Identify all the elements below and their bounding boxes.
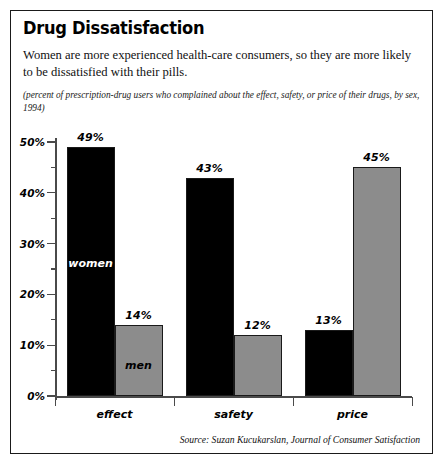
- y-axis-tick-major: [47, 192, 56, 193]
- y-axis-label: 20%: [12, 288, 45, 300]
- y-axis-label: 50%: [12, 136, 45, 148]
- y-axis-tick-minor: [51, 370, 56, 371]
- bar-value-label: 14%: [115, 309, 163, 322]
- x-axis-category-label: effect: [55, 408, 174, 421]
- series-label-women: women: [67, 257, 115, 270]
- x-axis-tick: [293, 397, 294, 406]
- y-axis-label: 10%: [12, 339, 45, 351]
- series-label-men: men: [115, 359, 163, 372]
- y-axis-tick-major: [47, 294, 56, 295]
- x-axis-category-label: price: [293, 408, 412, 421]
- y-axis-tick-major: [47, 141, 56, 142]
- x-axis-tick: [55, 397, 56, 406]
- page-title: Drug Dissatisfaction: [23, 19, 392, 38]
- chart-card: Drug Dissatisfaction Women are more expe…: [10, 10, 433, 454]
- x-axis-tick: [174, 397, 175, 406]
- bar-chart: 0%10%20%30%40%50% 49%women14%meneffect43…: [11, 134, 433, 424]
- y-axis-label: 30%: [12, 238, 45, 250]
- x-axis-tick: [412, 397, 413, 406]
- card-deck-text: Women are more experienced health-care c…: [23, 47, 415, 80]
- y-axis-tick-minor: [51, 319, 56, 320]
- bar-value-label: 13%: [305, 314, 353, 327]
- y-axis-label: 40%: [12, 187, 45, 199]
- source-credit: Source: Suzan Kucukarslan, Journal of Co…: [180, 434, 420, 445]
- bar-safety-men: [234, 335, 282, 396]
- bar-value-label: 12%: [234, 319, 282, 332]
- y-axis-tick-minor: [51, 218, 56, 219]
- bar-value-label: 49%: [67, 131, 115, 144]
- card-note-text: (percent of prescription-drug users who …: [23, 89, 421, 114]
- y-axis-tick-minor: [51, 268, 56, 269]
- y-axis-labels: 0%10%20%30%40%50%: [11, 134, 45, 424]
- bar-price-women: [305, 330, 353, 396]
- bar-effect-women: [67, 147, 115, 396]
- y-axis-label: 0%: [12, 390, 45, 402]
- bar-value-label: 45%: [353, 151, 401, 164]
- x-axis-line: [55, 396, 412, 398]
- y-axis-tick-major: [47, 345, 56, 346]
- x-axis-category-label: safety: [174, 408, 293, 421]
- card-header: Drug Dissatisfaction Women are more expe…: [23, 19, 420, 115]
- bar-price-men: [353, 167, 401, 396]
- y-axis-tick-minor: [51, 167, 56, 168]
- bar-value-label: 43%: [186, 162, 234, 175]
- bar-safety-women: [186, 178, 234, 396]
- y-axis-tick-major: [47, 243, 56, 244]
